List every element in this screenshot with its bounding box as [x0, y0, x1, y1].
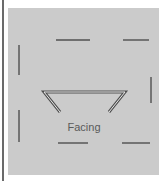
facing-diagram — [0, 0, 166, 181]
facing-shape — [44, 92, 125, 112]
facing-label: Facing — [64, 121, 104, 133]
